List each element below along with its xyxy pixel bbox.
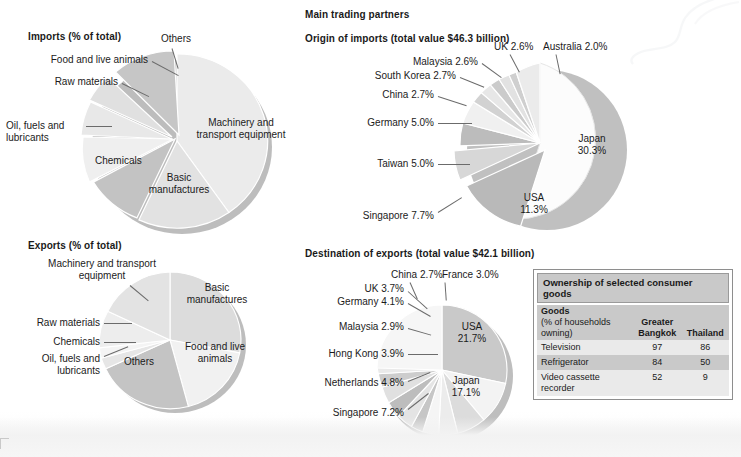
imports-slice-label-others: Others <box>161 33 191 45</box>
imports-partner-label-singapore: Singapore 7.7% <box>330 210 434 222</box>
imports-partner-label-south-korea: South Korea 2.7% <box>322 70 456 82</box>
table-header-thailand-label: Thailand <box>686 328 725 339</box>
imports-partner-label-japan-pct: 30.3% <box>566 145 618 157</box>
imports-partner-label-australia: Australia 2.0% <box>543 41 607 53</box>
table-header-bangkok-line2: Bangkok <box>637 328 678 339</box>
destination-of-exports-title: Destination of exports (total value $42.… <box>305 248 534 259</box>
exports-partner-label-france: France 3.0% <box>442 269 499 281</box>
table-row: Television 97 86 <box>537 340 729 355</box>
table-cell-thailand: 86 <box>682 340 729 355</box>
imports-partner-label-usa-name: USA <box>512 192 556 204</box>
imports-partner-label-china: China 2.7% <box>330 89 434 101</box>
exports-slice-label-machinery: Machinery and transport equipment <box>36 258 168 281</box>
consumer-goods-table: Ownership of selected consumer goods Goo… <box>533 269 733 400</box>
table-header-goods: Goods (% of households owning) <box>537 305 633 340</box>
table-header-goods-line2: (% of households <box>541 317 629 328</box>
consumer-goods-table-grid: Goods (% of households owning) Greater B… <box>537 305 729 396</box>
imports-partner-label-japan-name: Japan <box>566 133 618 145</box>
table-cell-bangkok: 97 <box>633 340 682 355</box>
exports-slice-label-food: Food and live animals <box>178 341 252 364</box>
table-header-goods-line1: Goods <box>541 306 629 317</box>
exports-slice-label-raw: Raw materials <box>0 317 100 329</box>
exports-composition-title: Exports (% of total) <box>28 240 122 251</box>
imports-slice-label-raw: Raw materials <box>0 76 118 88</box>
exports-partner-label-germany: Germany 4.1% <box>300 296 404 308</box>
table-body: Television 97 86 Refrigerator 84 50 Vide… <box>537 340 729 396</box>
imports-slice-label-chemicals: Chemicals <box>95 155 142 167</box>
exports-slice-label-oil: Oil, fuels and lubricants <box>0 353 100 376</box>
exports-partner-label-usa-name: USA <box>450 321 494 333</box>
table-header: Goods (% of households owning) Greater B… <box>537 305 729 340</box>
imports-partner-label-uk: UK 2.6% <box>494 41 533 53</box>
imports-partner-label-germany: Germany 5.0% <box>322 117 434 129</box>
exports-slice-label-basic: Basic manufactures <box>180 282 254 305</box>
exports-partner-label-netherlands: Netherlands 4.8% <box>296 377 404 389</box>
table-header-bangkok-line1: Greater <box>637 317 678 328</box>
main-trading-partners-heading: Main trading partners <box>305 9 409 20</box>
table-cell-goods: Video cassette recorder <box>537 370 633 396</box>
imports-partner-label-taiwan: Taiwan 5.0% <box>330 158 434 170</box>
table-row: Video cassette recorder 52 9 <box>537 370 729 396</box>
exports-partner-label-japan-pct: 17.1% <box>444 387 488 399</box>
table-header-goods-line3: owning) <box>541 328 629 339</box>
table-cell-goods: Refrigerator <box>537 355 633 370</box>
exports-partner-label-malaysia: Malaysia 2.9% <box>300 321 404 333</box>
exports-partner-label-singapore: Singapore 7.2% <box>300 407 404 419</box>
table-cell-bangkok: 52 <box>633 370 682 396</box>
exports-slice-label-chemicals: Chemicals <box>0 336 100 348</box>
table-cell-thailand: 50 <box>682 355 729 370</box>
exports-slice-label-others: Others <box>124 356 154 368</box>
exports-partner-label-china: China 2.7% <box>391 269 443 281</box>
table-header-thailand: Thailand <box>682 305 729 340</box>
table-header-greater-bangkok: Greater Bangkok <box>633 305 682 340</box>
exports-partner-label-hong-kong: Hong Kong 3.9% <box>296 348 404 360</box>
table-row: Refrigerator 84 50 <box>537 355 729 370</box>
table-cell-bangkok: 84 <box>633 355 682 370</box>
consumer-goods-table-title: Ownership of selected consumer goods <box>537 273 729 303</box>
exports-partner-label-uk: UK 3.7% <box>322 283 404 295</box>
exports-partner-label-usa-pct: 21.7% <box>450 333 494 345</box>
table-header-row: Goods (% of households owning) Greater B… <box>537 305 729 340</box>
imports-partner-label-malaysia: Malaysia 2.6% <box>340 56 478 68</box>
origin-of-imports-title: Origin of imports (total value $46.3 bil… <box>305 33 510 44</box>
exports-partner-label-japan-name: Japan <box>444 375 488 387</box>
imports-slice-label-oil: Oil, fuels and lubricants <box>6 120 92 143</box>
table-cell-thailand: 9 <box>682 370 729 396</box>
imports-slice-label-machinery: Machinery and transport equipment <box>192 117 290 140</box>
imports-slice-label-basic: Basic manufactures <box>140 172 218 195</box>
imports-partner-label-usa-pct: 11.3% <box>512 204 556 216</box>
table-cell-goods: Television <box>537 340 633 355</box>
imports-slice-label-food: Food and live animals <box>0 54 148 66</box>
